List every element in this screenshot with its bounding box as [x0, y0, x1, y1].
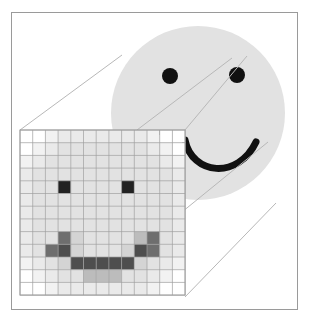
pixel-cell: [160, 206, 173, 219]
pixel-cell: [122, 270, 135, 283]
pixel-cell: [84, 168, 97, 181]
pixel-cell: [122, 232, 135, 245]
pixel-cell: [147, 194, 160, 207]
pixel-cell: [20, 143, 33, 156]
pixel-cell: [45, 130, 58, 143]
pixel-cell: [147, 282, 160, 295]
pixel-cell: [134, 143, 147, 156]
pixel-cell: [122, 168, 135, 181]
pixel-cell: [71, 155, 84, 168]
pixel-cell: [109, 143, 122, 156]
pixel-cell: [109, 282, 122, 295]
pixel-cell: [172, 219, 185, 232]
pixel-cell: [96, 206, 109, 219]
pixel-cell: [122, 194, 135, 207]
pixel-cell: [134, 206, 147, 219]
pixel-cell: [109, 194, 122, 207]
pixel-cell: [84, 244, 97, 257]
pixel-cell: [122, 282, 135, 295]
pixel-cell: [71, 244, 84, 257]
pixel-cell: [147, 244, 160, 257]
pixel-cell: [147, 155, 160, 168]
pixel-cell: [147, 219, 160, 232]
pixel-cell: [20, 232, 33, 245]
pixel-cell: [172, 232, 185, 245]
pixel-cell: [172, 282, 185, 295]
pixel-cell: [71, 181, 84, 194]
pixel-cell: [147, 270, 160, 283]
pixel-cell: [33, 181, 46, 194]
pixel-cell: [84, 194, 97, 207]
pixel-cell: [33, 244, 46, 257]
pixel-cell: [84, 232, 97, 245]
pixel-cell: [134, 181, 147, 194]
pixel-cell: [20, 282, 33, 295]
pixel-cell: [160, 282, 173, 295]
pixel-cell: [71, 270, 84, 283]
pixel-cell: [45, 232, 58, 245]
pixel-cell: [45, 257, 58, 270]
pixel-cell: [109, 181, 122, 194]
pixel-cell: [71, 232, 84, 245]
pixel-cell: [84, 219, 97, 232]
pixel-cell: [134, 282, 147, 295]
pixel-cell: [160, 194, 173, 207]
pixel-cell: [58, 206, 71, 219]
pixel-cell: [33, 194, 46, 207]
pixel-cell: [20, 206, 33, 219]
pixel-cell: [96, 257, 109, 270]
pixel-cell: [109, 155, 122, 168]
pixel-cell: [58, 270, 71, 283]
connector-line-2: [185, 203, 276, 297]
pixel-cell: [122, 181, 135, 194]
connector-line-0: [20, 55, 122, 130]
pixel-cell: [58, 219, 71, 232]
pixel-cell: [160, 232, 173, 245]
pixel-cell: [20, 219, 33, 232]
pixel-cell: [71, 194, 84, 207]
pixel-cell: [20, 181, 33, 194]
pixel-cell: [58, 143, 71, 156]
pixel-cell: [20, 244, 33, 257]
pixel-cell: [45, 194, 58, 207]
pixel-cell: [33, 282, 46, 295]
pixel-cell: [96, 282, 109, 295]
pixel-cell: [147, 130, 160, 143]
pixel-cell: [109, 270, 122, 283]
pixel-cell: [45, 244, 58, 257]
pixel-cell: [122, 143, 135, 156]
pixel-cell: [147, 168, 160, 181]
pixel-cell: [122, 257, 135, 270]
pixel-cell: [58, 257, 71, 270]
pixel-cell: [71, 219, 84, 232]
pixel-cell: [33, 206, 46, 219]
pixel-cell: [109, 257, 122, 270]
pixel-cell: [109, 206, 122, 219]
pixel-cell: [71, 282, 84, 295]
pixel-cell: [96, 168, 109, 181]
pixel-cell: [84, 143, 97, 156]
pixel-cell: [20, 130, 33, 143]
diagram-canvas: [0, 0, 310, 322]
pixel-cell: [20, 168, 33, 181]
pixel-cell: [160, 168, 173, 181]
pixel-cell: [172, 155, 185, 168]
pixel-cell: [84, 181, 97, 194]
pixel-cell: [45, 219, 58, 232]
pixel-cell: [33, 143, 46, 156]
pixel-cell: [109, 232, 122, 245]
pixel-cell: [33, 130, 46, 143]
pixel-cell: [58, 168, 71, 181]
pixel-cell: [134, 257, 147, 270]
pixel-cell: [134, 232, 147, 245]
pixel-cell: [147, 206, 160, 219]
pixel-cell: [33, 270, 46, 283]
pixel-cell: [134, 270, 147, 283]
figure-root: [0, 0, 310, 322]
pixel-cell: [109, 130, 122, 143]
pixel-cell: [122, 206, 135, 219]
pixel-cell: [147, 143, 160, 156]
pixel-cell: [172, 168, 185, 181]
pixel-cell: [96, 219, 109, 232]
magnified-pixel-grid: [20, 130, 185, 295]
